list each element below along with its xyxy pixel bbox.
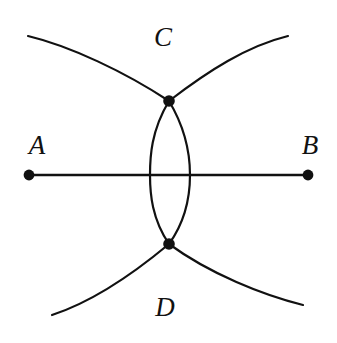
label-c: C	[154, 24, 172, 51]
geometry-figure: A B C D	[0, 0, 337, 343]
arc-intersection-lower-dot	[163, 238, 175, 250]
label-b: B	[302, 132, 319, 159]
arc-lower-left-path	[52, 244, 169, 315]
endpoint-b-dot	[303, 170, 314, 181]
label-a: A	[29, 132, 46, 159]
lens-right-path	[169, 101, 190, 244]
arc-intersection-upper-dot	[163, 95, 175, 107]
arc-lower-right-path	[169, 244, 303, 305]
endpoint-a-dot	[24, 170, 35, 181]
arc-upper-right-path	[169, 36, 288, 101]
lens-left-path	[150, 101, 169, 244]
label-d: D	[155, 294, 175, 321]
arc-upper-left-path	[28, 36, 169, 101]
